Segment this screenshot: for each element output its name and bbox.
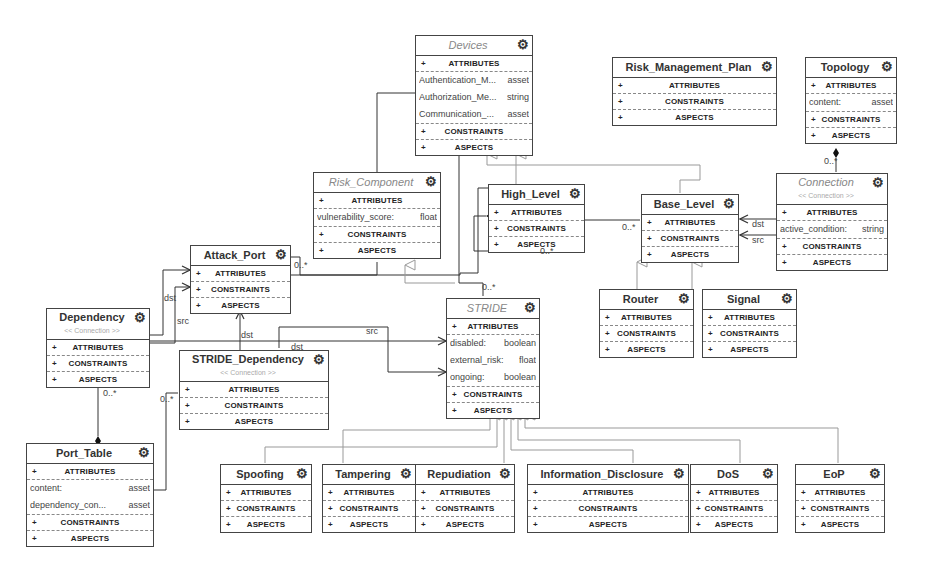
plus-icon[interactable]: + [494, 205, 499, 220]
plus-icon[interactable]: + [328, 485, 333, 500]
attribute-row[interactable]: disabled:boolean [447, 335, 539, 352]
attributes-section[interactable]: +ATTRIBUTES [191, 266, 290, 282]
aspects-section[interactable]: +ASPECTS [528, 517, 688, 532]
aspects-section[interactable]: +ASPECTS [416, 517, 514, 532]
constraints-section[interactable]: +CONSTRAINTS [489, 221, 584, 237]
class-dos[interactable]: DoS⚙ +ATTRIBUTES +CONSTRAINTS +ASPECTS [690, 464, 778, 533]
plus-icon[interactable]: + [618, 110, 623, 125]
plus-icon[interactable]: + [782, 239, 787, 254]
plus-icon[interactable]: + [319, 243, 324, 258]
plus-icon[interactable]: + [421, 56, 426, 71]
attributes-section[interactable]: +ATTRIBUTES [323, 485, 415, 501]
plus-icon[interactable]: + [196, 266, 201, 281]
constraints-section[interactable]: +CONSTRAINTS [691, 501, 777, 517]
class-port-table[interactable]: Port_Table⚙ +ATTRIBUTES content:asset de… [26, 443, 154, 547]
gear-icon[interactable]: ⚙ [274, 248, 287, 261]
plus-icon[interactable]: + [32, 531, 37, 546]
class-connection[interactable]: Connection<< Connection >>⚙ +ATTRIBUTES … [776, 173, 888, 271]
plus-icon[interactable]: + [421, 517, 426, 532]
gear-icon[interactable]: ⚙ [760, 60, 773, 73]
attribute-row[interactable]: external_risk:float [447, 352, 539, 369]
gear-icon[interactable]: ⚙ [295, 467, 308, 480]
attributes-section[interactable]: +ATTRIBUTES [703, 310, 796, 326]
aspects-section[interactable]: +ASPECTS [180, 414, 328, 429]
plus-icon[interactable]: + [811, 78, 816, 93]
plus-icon[interactable]: + [32, 464, 37, 479]
attribute-row[interactable]: content:asset [27, 480, 153, 497]
plus-icon[interactable]: + [708, 326, 713, 341]
attribute-row[interactable]: dependency_con...asset [27, 497, 153, 515]
plus-icon[interactable]: + [52, 356, 57, 371]
aspects-section[interactable]: +ASPECTS [416, 140, 532, 155]
constraints-section[interactable]: +CONSTRAINTS [528, 501, 688, 517]
plus-icon[interactable]: + [696, 485, 701, 500]
gear-icon[interactable]: ⚙ [868, 467, 881, 480]
constraints-section[interactable]: +CONSTRAINTS [416, 501, 514, 517]
plus-icon[interactable]: + [708, 310, 713, 325]
plus-icon[interactable]: + [421, 140, 426, 155]
attribute-row[interactable]: Authentication_M...asset [416, 72, 532, 89]
class-devices[interactable]: Devices⚙ +ATTRIBUTES Authentication_M...… [415, 35, 533, 156]
gear-icon[interactable]: ⚙ [424, 175, 437, 188]
attributes-section[interactable]: +ATTRIBUTES [314, 193, 440, 209]
plus-icon[interactable]: + [452, 387, 457, 402]
plus-icon[interactable]: + [185, 382, 190, 397]
plus-icon[interactable]: + [421, 124, 426, 139]
constraints-section[interactable]: +CONSTRAINTS [416, 124, 532, 140]
plus-icon[interactable]: + [708, 342, 713, 357]
constraints-section[interactable]: +CONSTRAINTS [447, 387, 539, 403]
constraints-section[interactable]: +CONSTRAINTS [703, 326, 796, 342]
plus-icon[interactable]: + [647, 247, 652, 262]
plus-icon[interactable]: + [801, 517, 806, 532]
constraints-section[interactable]: +CONSTRAINTS [47, 356, 149, 372]
attributes-section[interactable]: +ATTRIBUTES [416, 485, 514, 501]
plus-icon[interactable]: + [185, 398, 190, 413]
attribute-row[interactable]: content:asset [806, 94, 896, 112]
attributes-section[interactable]: +ATTRIBUTES [447, 319, 539, 335]
aspects-section[interactable]: +ASPECTS [691, 517, 777, 532]
plus-icon[interactable]: + [647, 231, 652, 246]
plus-icon[interactable]: + [52, 372, 57, 387]
aspects-section[interactable]: +ASPECTS [447, 403, 539, 418]
aspects-section[interactable]: +ASPECTS [777, 255, 887, 270]
constraints-section[interactable]: +CONSTRAINTS [600, 326, 693, 342]
plus-icon[interactable]: + [226, 485, 231, 500]
gear-icon[interactable]: ⚙ [523, 301, 536, 314]
plus-icon[interactable]: + [196, 298, 201, 313]
aspects-section[interactable]: +ASPECTS [47, 372, 149, 387]
aspects-section[interactable]: +ASPECTS [806, 128, 896, 143]
class-risk-management-plan[interactable]: Risk_Management_Plan⚙ +ATTRIBUTES +CONST… [612, 57, 777, 126]
class-stride[interactable]: STRIDE⚙ +ATTRIBUTES disabled:boolean ext… [446, 298, 540, 419]
plus-icon[interactable]: + [533, 501, 538, 516]
plus-icon[interactable]: + [801, 501, 806, 516]
gear-icon[interactable]: ⚙ [399, 467, 412, 480]
aspects-section[interactable]: +ASPECTS [489, 237, 584, 252]
plus-icon[interactable]: + [605, 310, 610, 325]
gear-icon[interactable]: ⚙ [722, 197, 735, 210]
plus-icon[interactable]: + [605, 342, 610, 357]
constraints-section[interactable]: +CONSTRAINTS [613, 94, 776, 110]
constraints-section[interactable]: +CONSTRAINTS [642, 231, 738, 247]
constraints-section[interactable]: +CONSTRAINTS [806, 112, 896, 128]
plus-icon[interactable]: + [494, 237, 499, 252]
gear-icon[interactable]: ⚙ [133, 311, 146, 324]
class-spoofing[interactable]: Spoofing⚙ +ATTRIBUTES +CONSTRAINTS +ASPE… [220, 464, 312, 533]
plus-icon[interactable]: + [696, 517, 701, 532]
gear-icon[interactable]: ⚙ [137, 446, 150, 459]
plus-icon[interactable]: + [618, 94, 623, 109]
plus-icon[interactable]: + [328, 517, 333, 532]
plus-icon[interactable]: + [801, 485, 806, 500]
class-information-disclosure[interactable]: Information_Disclosure⚙ +ATTRIBUTES +CON… [527, 464, 689, 533]
plus-icon[interactable]: + [811, 112, 816, 127]
plus-icon[interactable]: + [452, 403, 457, 418]
attributes-section[interactable]: +ATTRIBUTES [27, 464, 153, 480]
class-router[interactable]: Router⚙ +ATTRIBUTES +CONSTRAINTS +ASPECT… [599, 289, 694, 358]
class-repudiation[interactable]: Repudiation⚙ +ATTRIBUTES +CONSTRAINTS +A… [415, 464, 515, 533]
class-signal[interactable]: Signal⚙ +ATTRIBUTES +CONSTRAINTS +ASPECT… [702, 289, 797, 358]
attributes-section[interactable]: +ATTRIBUTES [416, 56, 532, 72]
aspects-section[interactable]: +ASPECTS [27, 531, 153, 546]
plus-icon[interactable]: + [185, 414, 190, 429]
gear-icon[interactable]: ⚙ [498, 467, 511, 480]
gear-icon[interactable]: ⚙ [677, 292, 690, 305]
attribute-row[interactable]: Communication_...asset [416, 106, 532, 124]
